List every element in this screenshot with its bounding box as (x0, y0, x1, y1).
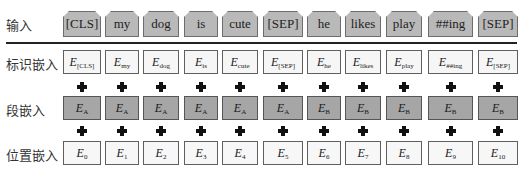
embedding-subscript: ##ing (446, 62, 462, 70)
input-token-text: dog (151, 16, 171, 32)
plus-icon (493, 82, 503, 92)
plus-icon (117, 126, 127, 136)
segment-embedding-label: EB (318, 101, 330, 116)
segment-embedding-label: EB (398, 101, 410, 116)
token-embedding-label: Eplay (394, 55, 413, 70)
plus-icon (446, 82, 456, 92)
token-embedding-label: E[SEP] (271, 55, 295, 70)
input-token-text: cute (229, 16, 251, 32)
segment-embedding-label: EA (277, 101, 289, 116)
plus-icon (446, 126, 456, 136)
embedding-subscript: 4 (242, 153, 246, 161)
embedding-subscript: B (452, 108, 457, 116)
input-token-text: my (114, 16, 131, 32)
input-token-text: he (318, 16, 330, 32)
position-embedding: E7 (345, 141, 381, 165)
embedding-subscript: A (202, 108, 207, 116)
input-token-text: play (393, 16, 415, 32)
segment-embedding: EB (345, 96, 381, 120)
token-embedding-label: Emy (114, 55, 130, 70)
position-embedding: E0 (63, 141, 101, 165)
divider-line (6, 42, 517, 44)
row-label-token-embedding: 标识嵌入 (6, 54, 58, 73)
row-label-position-embedding: 位置嵌入 (6, 145, 58, 164)
segment-embedding: EA (63, 96, 101, 120)
embedding-subscript: 3 (203, 153, 207, 161)
segment-embedding-label: EB (444, 101, 456, 116)
plus-icon (399, 82, 409, 92)
embedding-subscript: B (325, 108, 330, 116)
embedding-subscript: 6 (326, 153, 330, 161)
input-token: cute (222, 11, 258, 37)
input-token: play (386, 11, 422, 37)
token-embedding-label: Eis (195, 55, 207, 70)
embedding-subscript: my (121, 62, 130, 70)
segment-embedding-label: EB (492, 101, 504, 116)
embedding-subscript: 8 (406, 153, 410, 161)
token-embedding-label: Ehe (317, 55, 331, 70)
embedding-subscript: A (284, 108, 289, 116)
input-token: dog (143, 11, 179, 37)
position-embedding-label: E9 (445, 146, 456, 161)
position-embedding: E9 (428, 141, 473, 165)
token-embedding: E[SEP] (263, 50, 303, 74)
segment-embedding-label: EA (116, 101, 128, 116)
input-token-text: [SEP] (482, 16, 513, 32)
token-embedding-label: E##ing (439, 55, 462, 70)
plus-icon (235, 126, 245, 136)
input-token: [SEP] (263, 11, 303, 37)
embedding-subscript: 2 (163, 153, 167, 161)
embedding-subscript: 9 (452, 153, 456, 161)
embedding-subscript: A (162, 108, 167, 116)
embedding-subscript: [SEP] (278, 62, 295, 70)
position-embedding-label: E6 (319, 146, 330, 161)
embedding-subscript: A (241, 108, 246, 116)
plus-icon (196, 82, 206, 92)
embedding-subscript: play (402, 62, 414, 70)
input-token: ##ing (428, 11, 473, 37)
input-token: likes (345, 11, 381, 37)
position-embedding-label: E7 (358, 146, 369, 161)
token-embedding: E[SEP] (478, 50, 518, 74)
token-embedding-label: E[SEP] (486, 55, 510, 70)
position-embedding-label: E0 (77, 146, 88, 161)
plus-icon (319, 82, 329, 92)
input-token-text: ##ing (436, 16, 466, 32)
embedding-subscript: 0 (84, 153, 88, 161)
token-embedding: E##ing (428, 50, 473, 74)
embedding-subscript: [SEP] (493, 62, 510, 70)
position-embedding: E5 (263, 141, 303, 165)
position-embedding-label: E2 (156, 146, 167, 161)
plus-icon (358, 126, 368, 136)
position-embedding: E8 (386, 141, 422, 165)
plus-icon (493, 126, 503, 136)
input-token-text: [SEP] (267, 16, 298, 32)
token-embedding-label: E[CLS] (70, 55, 95, 70)
token-embedding: Eis (184, 50, 218, 74)
segment-embedding: EA (105, 96, 139, 120)
plus-icon (235, 82, 245, 92)
input-token-text: [CLS] (66, 16, 99, 32)
plus-icon (358, 82, 368, 92)
embedding-subscript: 5 (285, 153, 289, 161)
plus-icon (278, 126, 288, 136)
input-token: [CLS] (63, 11, 101, 37)
token-embedding: Elikes (345, 50, 381, 74)
plus-icon (77, 126, 87, 136)
segment-embedding-label: EA (76, 101, 88, 116)
embedding-subscript: B (405, 108, 410, 116)
plus-icon (156, 126, 166, 136)
segment-embedding: EB (478, 96, 518, 120)
segment-embedding: EA (143, 96, 179, 120)
segment-embedding: EB (386, 96, 422, 120)
token-embedding: Eplay (386, 50, 422, 74)
position-embedding-label: E4 (235, 146, 246, 161)
position-embedding: E6 (307, 141, 341, 165)
embedding-subscript: is (202, 62, 207, 70)
segment-embedding: EB (307, 96, 341, 120)
embedding-subscript: 10 (498, 153, 505, 161)
embedding-subscript: cute (238, 62, 250, 70)
token-embedding-label: Edog (152, 55, 170, 70)
input-token-text: is (197, 16, 206, 32)
position-embedding-label: E8 (399, 146, 410, 161)
